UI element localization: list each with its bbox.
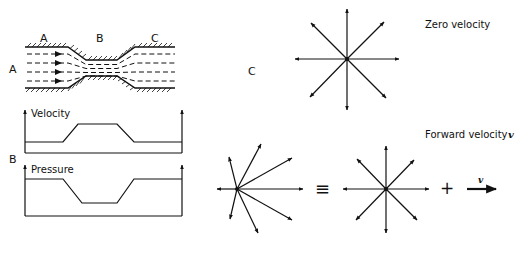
pressure-plot-title: Pressure [31,165,74,175]
zero-velocity-label: Zero velocity [425,20,490,30]
equivalence-symbol: ≡ [315,180,330,198]
forward-velocity-symbol: v [508,130,514,140]
section-label-c: C [151,33,159,44]
panel-label-b: B [9,154,17,165]
forward-velocity-vectors [217,144,303,233]
equivalent-origin [384,187,388,191]
plus-symbol: + [440,180,454,197]
flow-arrowheads [55,51,62,84]
pressure-curve [25,179,182,203]
zero-velocity-origin [345,57,349,61]
panel-label-a: A [9,64,17,75]
velocity-curve [25,124,182,142]
section-label-a: A [40,33,48,44]
velocity-plot-title: Velocity [31,109,70,119]
vector-v-label: v [478,176,483,185]
forward-velocity-label: Forward velocity [425,130,507,140]
section-label-b: B [96,33,104,44]
forward-velocity-origin [235,187,239,191]
channel-diagram [25,43,175,92]
panel-label-c: C [248,66,256,77]
